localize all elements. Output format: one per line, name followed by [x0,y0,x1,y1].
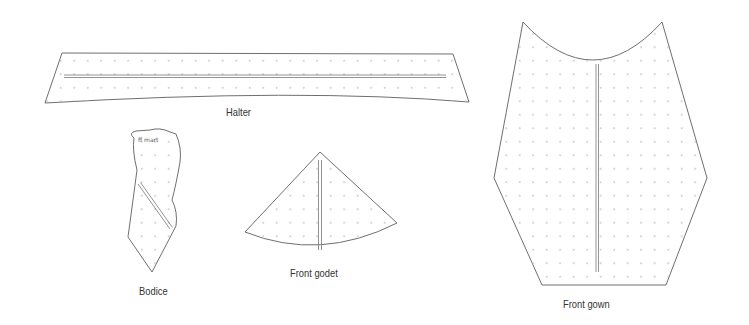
bodice-note: ff mart [138,136,159,143]
front-godet-piece [245,152,397,250]
front-gown-piece [494,22,707,285]
pattern-canvas: ff mart [0,0,749,325]
halter-label: Halter [226,106,251,118]
front-gown-label: Front gown [563,298,610,310]
bodice-label: Bodice [139,285,168,297]
front-godet-label: Front godet [290,267,338,279]
bodice-piece: ff mart [128,129,181,272]
halter-piece [45,53,469,103]
